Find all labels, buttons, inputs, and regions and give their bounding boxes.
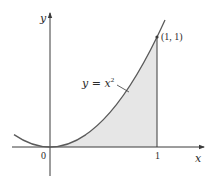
x-axis-label: x: [195, 152, 202, 165]
equation-leader-line: [117, 85, 129, 92]
x-tick-1-label: 1: [155, 150, 160, 161]
parabola-area-diagram: y x 0 1 (1, 1) y = x2: [0, 0, 213, 188]
y-axis-label: y: [39, 12, 47, 25]
equation-label: y = x2: [81, 76, 115, 90]
shaded-area: [50, 37, 157, 147]
point-1-1: [155, 35, 158, 38]
point-label: (1, 1): [161, 31, 183, 43]
origin-label: 0: [41, 150, 46, 161]
